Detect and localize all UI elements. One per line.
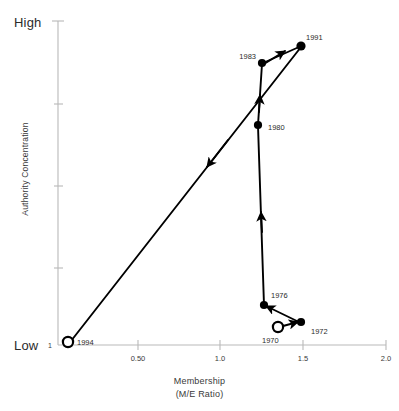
segment-1970-1972 <box>283 322 298 326</box>
x-tick-label: 1.0 <box>215 354 225 363</box>
x-axis-tick-labels: 0.50 1.0 1.5 2.0 <box>131 354 392 363</box>
point-label-1980: 1980 <box>268 123 285 132</box>
x-tick-label: 2.0 <box>381 354 391 363</box>
point-label-1972: 1972 <box>311 327 328 336</box>
point-label-1991: 1991 <box>306 33 323 42</box>
point-label-1976: 1976 <box>271 291 288 300</box>
segment-1991-1994 <box>71 47 301 341</box>
point-label-1970: 1970 <box>262 336 279 345</box>
data-point-1983 <box>258 59 266 67</box>
point-label-1983: 1983 <box>239 52 256 61</box>
trajectory-plot: 0.50 1.0 1.5 2.0 1 <box>0 0 399 411</box>
y-axis-high-label: High <box>14 15 42 30</box>
data-point-1980 <box>254 121 262 129</box>
x-axis-title: Membership (M/E Ratio) <box>0 375 399 401</box>
data-point-labels: 1970 1972 1976 1980 1983 1991 1994 <box>77 33 328 347</box>
x-axis-title-main: Membership <box>0 375 399 388</box>
data-point-1970 <box>273 322 283 332</box>
y-axis-title: Authority Concentration <box>14 84 32 254</box>
point-label-1994: 1994 <box>77 338 94 347</box>
x-axis-title-sub: (M/E Ratio) <box>0 388 399 401</box>
chart-container: 0.50 1.0 1.5 2.0 1 <box>0 0 399 411</box>
segment-1972-1976 <box>266 306 301 323</box>
y-axis-low-label: Low <box>14 338 38 353</box>
y-axis-title-text: Authority Concentration <box>20 122 30 215</box>
segment-1980-1983-arrow <box>259 95 260 112</box>
trajectory-path <box>71 47 301 341</box>
data-point-1972 <box>297 318 305 326</box>
x-tick-label: 1.5 <box>298 354 308 363</box>
axis-lines <box>58 21 386 345</box>
arrow-into-1991 <box>264 51 285 64</box>
data-point-1991 <box>296 41 305 50</box>
x-tick-label: 0.50 <box>131 354 146 363</box>
segment-1991-1994-arrow <box>207 140 228 167</box>
data-point-1976 <box>260 301 268 309</box>
data-point-1994 <box>63 337 73 347</box>
segment-1976-1980-arrow <box>261 212 262 232</box>
y-axis-origin-label: 1 <box>48 342 52 349</box>
